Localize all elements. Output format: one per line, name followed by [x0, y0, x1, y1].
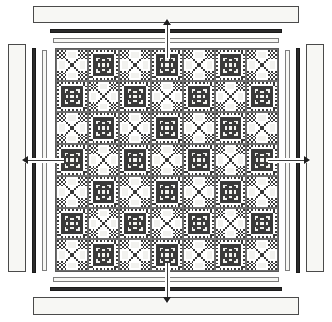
quilt-block-b-r5c4 — [151, 176, 183, 208]
quilt-block-a-r5c7 — [246, 176, 278, 208]
quilt-diagram — [0, 0, 332, 322]
quilt-block-a-r4c2 — [88, 144, 120, 176]
assembly-arrow-bottom-line — [167, 263, 168, 298]
quilt-block-a-r1c7 — [246, 49, 278, 81]
assembly-arrow-left-head — [22, 156, 28, 164]
quilt-block-b-r2c3 — [119, 81, 151, 113]
assembly-arrow-left-line — [26, 160, 64, 161]
quilt-block-a-r2c4 — [151, 81, 183, 113]
quilt-block-b-r3c4 — [151, 112, 183, 144]
quilt-block-b-r7c2 — [88, 239, 120, 271]
quilt-block-b-r4c3 — [119, 144, 151, 176]
quilt-block-b-r2c7 — [246, 81, 278, 113]
assembly-arrow-right-line — [268, 160, 306, 161]
quilt-block-b-r3c6 — [215, 112, 247, 144]
quilt-block-a-r6c4 — [151, 208, 183, 240]
quilt-block-a-r3c5 — [183, 112, 215, 144]
quilt-block-a-r1c5 — [183, 49, 215, 81]
quilt-block-b-r6c1 — [56, 208, 88, 240]
quilt-center-grid — [55, 48, 279, 272]
quilt-block-a-r6c2 — [88, 208, 120, 240]
quilt-block-b-r5c6 — [215, 176, 247, 208]
quilt-block-b-r2c5 — [183, 81, 215, 113]
quilt-block-a-r3c7 — [246, 112, 278, 144]
quilt-block-b-r1c6 — [215, 49, 247, 81]
quilt-block-a-r5c1 — [56, 176, 88, 208]
assembly-arrow-right-head — [304, 156, 310, 164]
assembly-arrow-top-head — [163, 19, 171, 25]
quilt-block-a-r7c7 — [246, 239, 278, 271]
quilt-block-a-r2c2 — [88, 81, 120, 113]
quilt-block-a-r7c1 — [56, 239, 88, 271]
assembly-arrow-bottom-head — [163, 297, 171, 303]
quilt-block-b-r4c5 — [183, 144, 215, 176]
quilt-block-a-r2c6 — [215, 81, 247, 113]
quilt-block-a-r6c6 — [215, 208, 247, 240]
quilt-block-b-r1c2 — [88, 49, 120, 81]
quilt-block-a-r4c6 — [215, 144, 247, 176]
quilt-block-b-r6c7 — [246, 208, 278, 240]
quilt-block-a-r4c4 — [151, 144, 183, 176]
quilt-block-a-r3c1 — [56, 112, 88, 144]
quilt-block-b-r7c6 — [215, 239, 247, 271]
quilt-block-a-r3c3 — [119, 112, 151, 144]
quilt-block-b-r5c2 — [88, 176, 120, 208]
quilt-block-b-r6c5 — [183, 208, 215, 240]
assembly-arrow-top-line — [167, 23, 168, 58]
quilt-block-a-r1c3 — [119, 49, 151, 81]
quilt-block-a-r1c1 — [56, 49, 88, 81]
quilt-block-a-r5c3 — [119, 176, 151, 208]
quilt-block-b-r6c3 — [119, 208, 151, 240]
quilt-block-a-r5c5 — [183, 176, 215, 208]
quilt-block-a-r7c3 — [119, 239, 151, 271]
quilt-block-a-r7c5 — [183, 239, 215, 271]
quilt-block-b-r3c2 — [88, 112, 120, 144]
quilt-block-b-r2c1 — [56, 81, 88, 113]
